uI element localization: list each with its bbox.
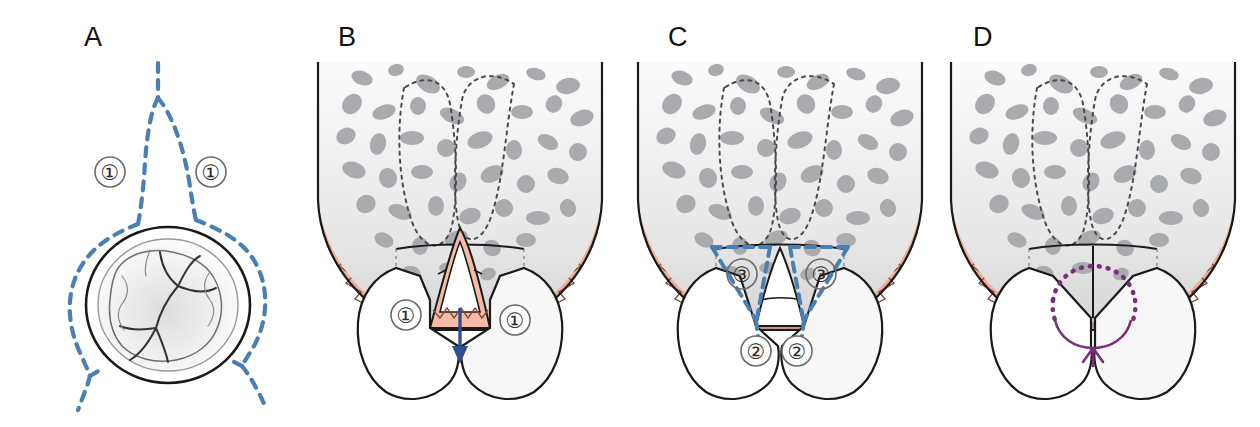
label-a-left: ① bbox=[95, 157, 125, 187]
label-c-lower-left: ② bbox=[741, 336, 771, 366]
label-b-left: ① bbox=[391, 300, 421, 330]
label-c-lower-left-text: ② bbox=[747, 340, 766, 364]
panel-b-letter: B bbox=[338, 22, 356, 53]
figure-canvas: A bbox=[0, 0, 1260, 427]
label-c-upper-right-text: ③ bbox=[812, 263, 831, 287]
label-b-right-text: ① bbox=[506, 309, 525, 333]
panel-b: B bbox=[300, 0, 620, 427]
label-a-left-text: ① bbox=[101, 161, 120, 185]
panel-a-letter: A bbox=[84, 22, 102, 53]
label-c-lower-right-text: ② bbox=[788, 340, 807, 364]
label-c-upper-left-text: ③ bbox=[733, 263, 752, 287]
panel-c-drawing: ③ ③ ② ② bbox=[620, 0, 940, 427]
panel-d-letter: D bbox=[973, 22, 993, 53]
label-a-right: ① bbox=[196, 157, 226, 187]
label-a-right-text: ① bbox=[202, 161, 221, 185]
label-c-lower-right: ② bbox=[782, 336, 812, 366]
panel-a-labels: ① ① bbox=[95, 157, 226, 187]
panel-a-drawing: ① ① bbox=[0, 0, 320, 427]
panel-c-letter: C bbox=[668, 22, 688, 53]
label-b-left-text: ① bbox=[397, 304, 416, 328]
panel-a: A bbox=[0, 0, 320, 427]
panel-d-drawing bbox=[925, 0, 1260, 427]
panel-c: C bbox=[620, 0, 940, 427]
panel-b-drawing: ① ① bbox=[300, 0, 620, 427]
panel-d: D bbox=[925, 0, 1260, 427]
molar-enamel-ridge bbox=[98, 239, 238, 371]
label-b-right: ① bbox=[500, 305, 530, 335]
